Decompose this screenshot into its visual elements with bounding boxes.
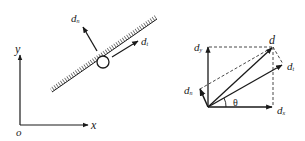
d-label: d	[269, 33, 276, 47]
ball	[97, 56, 109, 68]
theta-label: θ	[233, 97, 238, 108]
dx-label: dx	[277, 104, 286, 116]
x-axis-label: x	[90, 118, 97, 132]
y-axis-label: y	[14, 42, 21, 56]
dy-label: dy	[194, 41, 203, 53]
surface-hatching	[50, 15, 157, 92]
d-vector-arrow	[208, 48, 272, 107]
dn-vector-arrow	[83, 27, 97, 51]
right-diagram: θ d dx dy dt dn	[184, 33, 295, 116]
dt-vector-arrow-right	[208, 65, 282, 107]
theta-arc	[224, 98, 226, 107]
dt-label-right: dt	[287, 60, 295, 72]
origin-label: o	[16, 126, 22, 138]
dt-label: dt	[141, 35, 149, 47]
dashed-dn-to-d	[200, 47, 273, 89]
dashed-d-to-dt	[273, 47, 283, 64]
left-diagram: y x o dn dt	[14, 12, 157, 138]
dn-label-right: dn	[184, 84, 193, 96]
dn-vector-arrow-right	[200, 89, 208, 107]
displacement-decomposition-diagram: y x o dn dt θ	[0, 0, 305, 141]
surface-line	[52, 19, 157, 92]
inclined-surface	[50, 15, 157, 92]
dn-label: dn	[71, 12, 80, 24]
